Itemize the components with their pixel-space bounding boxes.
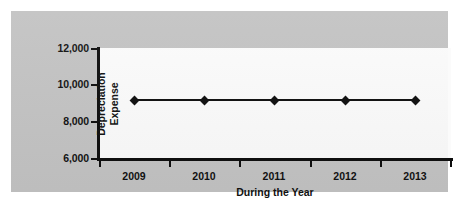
x-axis-tick	[310, 161, 312, 167]
y-axis-title: Depreciation Expense	[33, 48, 67, 160]
x-axis-tick	[450, 161, 452, 167]
x-axis-title: During the Year	[99, 186, 451, 198]
x-axis-tick	[380, 161, 382, 167]
x-axis-tick	[99, 161, 101, 167]
x-axis-tick-label: 2012	[315, 170, 375, 182]
x-axis-tick	[169, 161, 171, 167]
x-axis-tick-label: 2011	[244, 170, 304, 182]
y-axis-title-line: Expense	[58, 48, 170, 160]
x-axis-tick-label: 2010	[174, 170, 234, 182]
chart-panel: 12,000 10,000 8,000 6,000 2009 2010 2011…	[11, 11, 448, 192]
chart-figure: 12,000 10,000 8,000 6,000 2009 2010 2011…	[0, 0, 458, 200]
x-axis-tick	[239, 161, 241, 167]
x-axis-tick-label: 2009	[104, 170, 164, 182]
x-axis-tick-label: 2013	[385, 170, 445, 182]
